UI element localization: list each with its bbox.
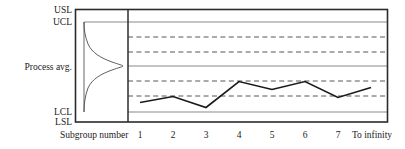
ucl-label: UCL (53, 17, 72, 27)
x-tick-3: 3 (204, 130, 209, 140)
x-tick-2: 2 (171, 130, 176, 140)
process-average-label: Process avg. (25, 62, 73, 72)
x-tick-7: 7 (336, 130, 341, 140)
usl-label: USL (54, 5, 72, 15)
x-tick-6: 6 (303, 130, 308, 140)
x-tick-4: 4 (237, 130, 242, 140)
lcl-label: LCL (54, 107, 72, 117)
x-tick-1: 1 (138, 130, 143, 140)
lsl-label: LSL (55, 117, 72, 127)
control-chart-svg: USL UCL Process avg. LCL LSL Subgroup nu… (0, 0, 405, 149)
x-axis-title: Subgroup number (60, 130, 129, 140)
control-chart-figure: USL UCL Process avg. LCL LSL Subgroup nu… (0, 0, 405, 149)
x-tick-to-infinity: To infinity (352, 130, 392, 140)
x-tick-5: 5 (270, 130, 275, 140)
